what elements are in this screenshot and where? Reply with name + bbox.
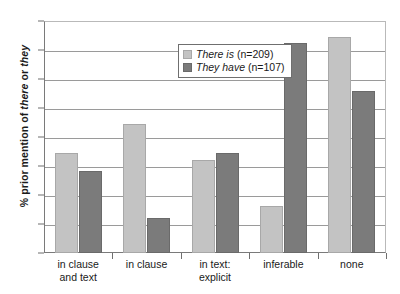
y-axis-title: % prior mention of there or they bbox=[18, 6, 30, 246]
x-axis-tick-mark bbox=[386, 253, 387, 259]
y-axis-title-mid: or bbox=[18, 67, 30, 84]
y-axis-title-em-they: they bbox=[18, 45, 30, 67]
x-axis-tick-label: inferable bbox=[249, 258, 317, 271]
bar bbox=[147, 218, 170, 253]
legend-label-there-is: There is bbox=[196, 48, 234, 61]
legend-item-they-have: They have (n=107) bbox=[183, 61, 285, 74]
bar bbox=[192, 160, 215, 253]
x-axis-tick-label: in text: explicit bbox=[181, 258, 249, 284]
bar bbox=[216, 153, 239, 253]
legend-count-they-have: (n=107) bbox=[248, 61, 284, 74]
y-axis-title-em-there: there bbox=[18, 84, 30, 110]
bar bbox=[123, 124, 146, 253]
legend-label-they-have: They have bbox=[196, 61, 245, 74]
legend-swatch-they-have bbox=[183, 63, 192, 72]
x-axis-tick-label: in clause bbox=[112, 258, 180, 271]
bar bbox=[352, 91, 375, 253]
x-axis-tick-label: in clause and text bbox=[44, 258, 112, 284]
bar bbox=[328, 37, 351, 253]
legend-count-there-is: (n=209) bbox=[237, 48, 273, 61]
bar-chart: % prior mention of there or they 0%5%10%… bbox=[0, 0, 400, 294]
y-axis-title-pre: % prior mention of bbox=[18, 110, 30, 208]
x-axis-tick-label: none bbox=[318, 258, 386, 271]
legend: There is (n=209) They have (n=107) bbox=[178, 44, 292, 78]
bar bbox=[79, 171, 102, 253]
legend-item-there-is: There is (n=209) bbox=[183, 48, 285, 61]
bar bbox=[260, 206, 283, 253]
legend-swatch-there-is bbox=[183, 50, 192, 59]
bar bbox=[55, 153, 78, 253]
